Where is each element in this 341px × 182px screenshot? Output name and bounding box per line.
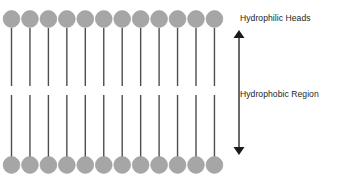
lipid-head — [22, 157, 39, 174]
hydrophobic-region-label: Hydrophobic Region — [240, 90, 319, 99]
arrow-head-down-icon — [234, 147, 245, 155]
lipid-head — [114, 11, 131, 28]
lipid-head — [95, 11, 112, 28]
lipid-head — [77, 157, 94, 174]
arrow-head-up-icon — [234, 30, 245, 38]
lipid-head — [169, 11, 186, 28]
lower-leaflet — [3, 95, 223, 173]
lipid-head — [188, 157, 205, 174]
lipid-head — [58, 157, 75, 174]
hydrophilic-heads-label: Hydrophilic Heads — [240, 14, 311, 23]
upper-leaflet — [3, 11, 223, 86]
lipid-head — [151, 157, 168, 174]
lipid-head — [169, 157, 186, 174]
lipid-head — [40, 11, 57, 28]
lipid-head — [40, 157, 57, 174]
lipid-head — [3, 11, 20, 28]
lipid-head — [151, 11, 168, 28]
lipid-head — [188, 11, 205, 28]
lipid-head — [206, 11, 223, 28]
lipid-head — [132, 11, 149, 28]
lipid-head — [3, 157, 20, 174]
lipid-head — [95, 157, 112, 174]
lipid-head — [22, 11, 39, 28]
lipid-head — [114, 157, 131, 174]
lipid-head — [58, 11, 75, 28]
lipid-head — [77, 11, 94, 28]
lipid-head — [132, 157, 149, 174]
lipid-head — [206, 157, 223, 174]
phospholipid-bilayer-diagram: Hydrophilic Heads Hydrophobic Region — [0, 0, 341, 182]
